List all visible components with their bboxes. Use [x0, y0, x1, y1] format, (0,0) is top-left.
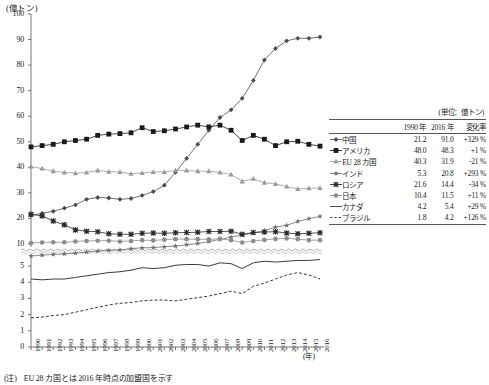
legend-row: 日本10.411.5+11 % [329, 190, 486, 201]
header-country [342, 120, 399, 134]
legend-change-rate: +293 % [454, 168, 486, 179]
legend-country-name: ロシア [342, 179, 399, 190]
legend-country-name: ブラジル [342, 212, 399, 224]
x-tick-2015: 2015 [312, 339, 320, 352]
x-tick-2007: 2007 [223, 339, 231, 352]
y-lower-tick-0: 0 [2, 342, 24, 351]
legend-value-2016: 14.4 [426, 179, 453, 190]
x-tick-2009: 2009 [245, 339, 253, 352]
y-tick-10: 10 [2, 239, 24, 248]
footnote: (注)EU 28 カ国とは 2016 年時点の加盟国を示す [4, 372, 173, 383]
x-tick-2016: 2016 [323, 339, 331, 352]
legend-table-head: 1990 年 2016 年 変化率 [329, 120, 486, 134]
legend-row: ロシア21.614.4-34 % [329, 179, 486, 190]
legend-marker-triangle-icon [329, 156, 342, 167]
series-usa [29, 123, 323, 150]
chart-page: (億トン) (年) 100908070605040302010543210 19… [0, 0, 489, 385]
x-tick-1990: 1990 [34, 339, 42, 352]
legend-row: ブラジル1.84.2+126 % [329, 212, 486, 224]
x-tick-1999: 1999 [134, 339, 142, 352]
y-tick-20: 20 [2, 213, 24, 222]
legend-marker-square-icon [329, 145, 342, 156]
legend-row: インド5.320.8+293 % [329, 168, 486, 179]
legend-change-rate: +29 % [454, 201, 486, 212]
header-2016: 2016 年 [426, 120, 453, 134]
legend-marker-cross-icon [329, 179, 342, 190]
x-tick-2003: 2003 [179, 339, 187, 352]
legend-table-body: 中国21.291.0+329 %アメリカ48.048.3+1 %EU 28 カ国… [329, 134, 486, 225]
y-tick-40: 40 [2, 162, 24, 171]
legend-marker-dashed-icon [329, 212, 342, 224]
y-lower-tick-2: 2 [2, 310, 24, 319]
y-tick-60: 60 [2, 111, 24, 120]
x-tick-1997: 1997 [112, 339, 120, 352]
legend-country-name: 中国 [342, 134, 399, 146]
x-tick-2000: 2000 [145, 339, 153, 352]
legend-header-row: 1990 年 2016 年 変化率 [329, 120, 486, 134]
x-tick-1993: 1993 [67, 339, 75, 352]
legend-row: EU 28 カ国40.331.9-21 % [329, 156, 486, 167]
legend-unit-label: (単位：億トン) [329, 106, 486, 117]
legend-country-name: インド [342, 168, 399, 179]
y-tick-100: 100 [2, 9, 24, 18]
legend-country-name: カナダ [342, 201, 399, 212]
y-lower-tick-1: 1 [2, 326, 24, 335]
header-change-rate: 変化率 [454, 120, 486, 134]
legend-value-1990: 21.6 [399, 179, 426, 190]
x-tick-2012: 2012 [279, 339, 287, 352]
legend-value-2016: 31.9 [426, 156, 453, 167]
y-lower-tick-5: 5 [2, 261, 24, 270]
x-tick-2002: 2002 [167, 339, 175, 352]
y-tick-50: 50 [2, 137, 24, 146]
legend-change-rate: +11 % [454, 190, 486, 201]
footnote-text: EU 28 カ国とは 2016 年時点の加盟国を示す [24, 374, 173, 383]
x-tick-2014: 2014 [301, 339, 309, 352]
series-eu [28, 164, 322, 191]
legend-value-2016: 91.0 [426, 134, 453, 146]
x-tick-1991: 1991 [45, 339, 53, 352]
legend-data-table: (単位：億トン) 1990 年 2016 年 変化率 中国21.291.0+32… [329, 106, 486, 225]
x-tick-1996: 1996 [101, 339, 109, 352]
legend-table: 1990 年 2016 年 変化率 中国21.291.0+329 %アメリカ48… [329, 119, 486, 225]
series-russia [28, 212, 323, 237]
legend-value-2016: 48.3 [426, 145, 453, 156]
legend-row: アメリカ48.048.3+1 % [329, 145, 486, 156]
x-tick-2010: 2010 [256, 339, 264, 352]
x-tick-2013: 2013 [290, 339, 298, 352]
x-tick-1994: 1994 [78, 339, 86, 352]
legend-change-rate: +126 % [454, 212, 486, 224]
legend-value-1990: 40.3 [399, 156, 426, 167]
x-tick-1998: 1998 [123, 339, 131, 352]
legend-country-name: EU 28 カ国 [342, 156, 399, 167]
header-marker [329, 120, 342, 134]
legend-value-1990: 48.0 [399, 145, 426, 156]
legend-country-name: 日本 [342, 190, 399, 201]
x-tick-2004: 2004 [190, 339, 198, 352]
legend-value-1990: 4.2 [399, 201, 426, 212]
legend-value-2016: 11.5 [426, 190, 453, 201]
series-canada [31, 260, 320, 280]
legend-value-2016: 5.4 [426, 201, 453, 212]
series-china [29, 35, 323, 218]
y-tick-90: 90 [2, 35, 24, 44]
series-brazil [31, 273, 320, 318]
x-tick-2006: 2006 [212, 339, 220, 352]
y-tick-30: 30 [2, 188, 24, 197]
y-lower-tick-4: 4 [2, 277, 24, 286]
legend-change-rate: -34 % [454, 179, 486, 190]
legend-marker-solid-icon [329, 201, 342, 212]
legend-value-1990: 5.3 [399, 168, 426, 179]
x-tick-2005: 2005 [201, 339, 209, 352]
y-tick-80: 80 [2, 60, 24, 69]
x-tick-1992: 1992 [56, 339, 64, 352]
x-tick-2011: 2011 [267, 339, 275, 352]
legend-change-rate: +329 % [454, 134, 486, 146]
x-tick-1995: 1995 [90, 339, 98, 352]
legend-row: カナダ4.25.4+29 % [329, 201, 486, 212]
legend-change-rate: -21 % [454, 156, 486, 167]
y-lower-tick-3: 3 [2, 293, 24, 302]
x-tick-2001: 2001 [156, 339, 164, 352]
legend-value-1990: 10.4 [399, 190, 426, 201]
x-tick-2008: 2008 [234, 339, 242, 352]
legend-value-1990: 1.8 [399, 212, 426, 224]
